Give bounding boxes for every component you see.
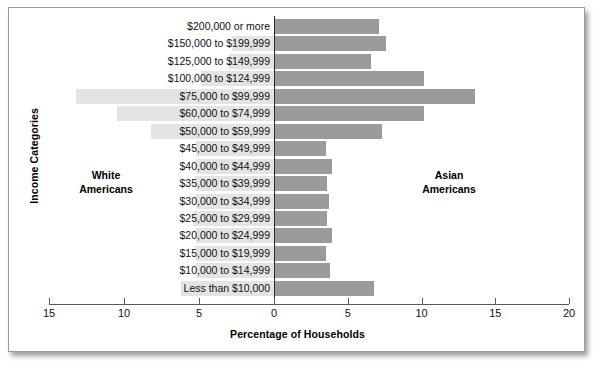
category-label: $25,000 to $29,999 bbox=[89, 211, 274, 226]
bar-row: $100,000 to $124,999 bbox=[9, 70, 586, 87]
bar-asian-americans bbox=[274, 263, 330, 278]
category-label: $100,000 to $124,999 bbox=[89, 71, 274, 86]
bar-row: $10,000 to $14,999 bbox=[9, 262, 586, 279]
x-axis-tick-label: 10 bbox=[402, 307, 442, 319]
bar-row: $25,000 to $29,999 bbox=[9, 210, 586, 227]
category-label: $20,000 to $24,999 bbox=[89, 228, 274, 243]
x-axis-tick bbox=[569, 298, 570, 304]
bar-asian-americans bbox=[274, 281, 374, 296]
x-axis-tick-label: 5 bbox=[179, 307, 219, 319]
x-axis-tick bbox=[49, 298, 50, 304]
bar-row: $20,000 to $24,999 bbox=[9, 227, 586, 244]
bar-row: $125,000 to $149,999 bbox=[9, 53, 586, 70]
plot-area: Income Categories White Americans Asian … bbox=[9, 8, 586, 353]
bar-row: $150,000 to $199,999 bbox=[9, 35, 586, 52]
category-label: $200,000 or more bbox=[89, 19, 274, 34]
bar-asian-americans bbox=[274, 54, 371, 69]
bar-asian-americans bbox=[274, 141, 326, 156]
x-axis-tick bbox=[422, 298, 423, 304]
x-axis-tick-label: 5 bbox=[328, 307, 368, 319]
bar-asian-americans bbox=[274, 211, 327, 226]
bar-row: $60,000 to $74,999 bbox=[9, 105, 586, 122]
category-label: $125,000 to $149,999 bbox=[89, 54, 274, 69]
x-axis-title: Percentage of Households bbox=[9, 328, 586, 340]
x-axis-line bbox=[49, 304, 569, 305]
bar-row: $30,000 to $34,999 bbox=[9, 193, 586, 210]
category-label: $60,000 to $74,999 bbox=[89, 106, 274, 121]
category-label: $40,000 to $44,999 bbox=[89, 159, 274, 174]
bar-asian-americans bbox=[274, 36, 386, 51]
bar-asian-americans bbox=[274, 176, 327, 191]
bar-row: $15,000 to $19,999 bbox=[9, 245, 586, 262]
bar-asian-americans bbox=[274, 246, 326, 261]
x-axis-tick-label: 0 bbox=[254, 307, 294, 319]
x-axis-tick bbox=[495, 298, 496, 304]
bar-asian-americans bbox=[274, 159, 332, 174]
bar-asian-americans bbox=[274, 89, 475, 104]
zero-axis-line bbox=[274, 16, 275, 304]
bar-row: $200,000 or more bbox=[9, 18, 586, 35]
chart-figure-card: Income Categories White Americans Asian … bbox=[8, 7, 585, 352]
bar-asian-americans bbox=[274, 71, 424, 86]
bar-asian-americans bbox=[274, 194, 329, 209]
x-axis-tick-label: 10 bbox=[104, 307, 144, 319]
category-label: $35,000 to $39,999 bbox=[89, 176, 274, 191]
category-label: $30,000 to $34,999 bbox=[89, 194, 274, 209]
category-label: $50,000 to $59,999 bbox=[89, 124, 274, 139]
bar-asian-americans bbox=[274, 19, 379, 34]
category-label: $10,000 to $14,999 bbox=[89, 263, 274, 278]
x-axis-tick bbox=[199, 298, 200, 304]
x-axis-tick bbox=[274, 298, 275, 304]
bar-asian-americans bbox=[274, 124, 382, 139]
category-label: Less than $10,000 bbox=[89, 281, 274, 296]
bar-row: $75,000 to $99,999 bbox=[9, 88, 586, 105]
bar-row: $35,000 to $39,999 bbox=[9, 175, 586, 192]
bar-rows: $200,000 or more$150,000 to $199,999$125… bbox=[9, 8, 586, 304]
category-label: $45,000 to $49,999 bbox=[89, 141, 274, 156]
category-label: $15,000 to $19,999 bbox=[89, 246, 274, 261]
category-label: $150,000 to $199,999 bbox=[89, 36, 274, 51]
bar-row: $40,000 to $44,999 bbox=[9, 158, 586, 175]
bar-row: Less than $10,000 bbox=[9, 280, 586, 297]
x-axis-tick-label: 20 bbox=[549, 307, 589, 319]
category-label: $75,000 to $99,999 bbox=[89, 89, 274, 104]
bar-asian-americans bbox=[274, 228, 332, 243]
bar-asian-americans bbox=[274, 106, 424, 121]
bar-row: $50,000 to $59,999 bbox=[9, 123, 586, 140]
x-axis-tick-label: 15 bbox=[475, 307, 515, 319]
x-axis-tick bbox=[348, 298, 349, 304]
x-axis-tick bbox=[124, 298, 125, 304]
x-axis-tick-label: 15 bbox=[29, 307, 69, 319]
bar-row: $45,000 to $49,999 bbox=[9, 140, 586, 157]
